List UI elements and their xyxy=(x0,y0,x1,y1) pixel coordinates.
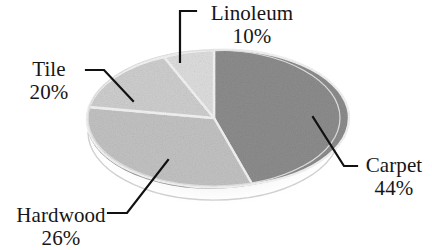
slice-label-hardwood-category: Hardwood xyxy=(2,204,120,227)
slice-label-carpet: Carpet 44% xyxy=(356,154,432,199)
slice-label-carpet-category: Carpet xyxy=(356,154,432,177)
pie-top-face xyxy=(87,50,349,188)
pie-chart-figure: Linoleum 10% Tile 20% Carpet 44% Hardwoo… xyxy=(0,0,432,250)
slice-label-linoleum-category: Linoleum xyxy=(192,2,312,25)
slice-label-linoleum-percent: 10% xyxy=(192,25,312,48)
slice-label-linoleum: Linoleum 10% xyxy=(192,2,312,47)
slice-label-carpet-percent: 44% xyxy=(356,177,432,200)
slice-label-hardwood-percent: 26% xyxy=(2,227,120,250)
slice-label-tile: Tile 20% xyxy=(6,58,92,103)
slice-label-tile-category: Tile xyxy=(6,58,92,81)
slice-label-tile-percent: 20% xyxy=(6,81,92,104)
slice-label-hardwood: Hardwood 26% xyxy=(2,204,120,249)
